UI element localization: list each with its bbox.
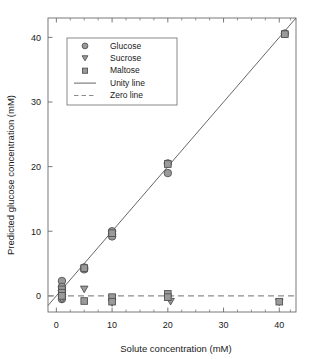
x-axis-title: Solute concentration (mM) [120, 343, 231, 354]
x-axis-tick-labels: 010203040 [54, 320, 284, 330]
x-axis-top-ticks [56, 18, 290, 23]
data-point [80, 286, 88, 293]
y-tick-label: 0 [36, 291, 41, 301]
y-axis-title: Predicted glucose concentration (mM) [5, 95, 16, 255]
legend-marker-glucose [82, 43, 88, 49]
data-point [282, 31, 289, 38]
x-tick-label: 20 [163, 320, 173, 330]
data-point [81, 265, 88, 272]
y-tick-label: 10 [31, 227, 41, 237]
y-tick-label: 40 [31, 33, 41, 43]
legend-label-sucrose: Sucrose [110, 53, 141, 63]
legend-label-maltose: Maltose [110, 65, 140, 75]
x-tick-label: 30 [219, 320, 229, 330]
data-point [81, 298, 88, 305]
chart-legend: GlucoseSucroseMaltoseUnity lineZero line [67, 38, 177, 105]
legend-label-unity-line: Unity line [110, 78, 145, 88]
data-point [59, 293, 66, 300]
scatter-plot: 010203040 010203040 Solute concentration… [0, 0, 313, 359]
y-axis-tick-labels: 010203040 [31, 33, 41, 301]
legend-marker-maltose [82, 68, 87, 73]
x-axis-ticks [56, 308, 279, 313]
data-point [276, 298, 283, 305]
data-point [164, 169, 171, 176]
data-point [109, 230, 116, 237]
legend-label-zero-line: Zero line [110, 90, 143, 100]
data-point [165, 161, 172, 168]
legend-label-glucose: Glucose [110, 41, 141, 51]
x-tick-label: 40 [274, 320, 284, 330]
x-tick-label: 0 [54, 320, 59, 330]
y-tick-label: 20 [31, 162, 41, 172]
data-point [165, 294, 172, 301]
x-tick-label: 10 [107, 320, 117, 330]
y-tick-label: 30 [31, 97, 41, 107]
data-point [109, 298, 116, 305]
y-axis-ticks [48, 37, 53, 295]
chart-figure: 010203040 010203040 Solute concentration… [0, 0, 313, 359]
